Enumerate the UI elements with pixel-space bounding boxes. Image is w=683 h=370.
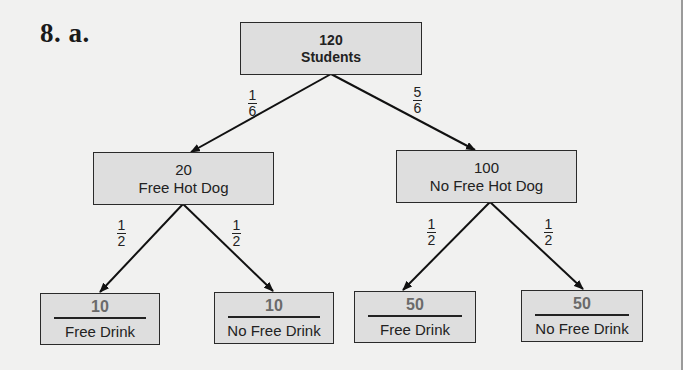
probability-nohotdog-no-free-drink: 1 2 [544, 218, 553, 247]
leaf-nohotdog-free-drink: 50 Free Drink [354, 291, 476, 343]
root-count: 120 [319, 32, 342, 49]
root-node: 120 Students [240, 22, 422, 75]
fraction-bar [368, 315, 462, 317]
fraction-bar [54, 317, 146, 319]
probability-hotdog-free-drink: 1 2 [117, 219, 126, 248]
node-no-free-hot-dog: 100 No Free Hot Dog [396, 150, 577, 203]
leaf-nohotdog-no-free-drink: 50 No Free Drink [521, 290, 643, 342]
fraction-bar [535, 314, 629, 316]
root-label: Students [301, 49, 361, 66]
probability-no-free-hot-dog: 5 6 [413, 86, 422, 115]
arrow-hotdog-to-free-drink [100, 204, 183, 292]
arrow-nohotdog-to-free-drink [403, 202, 490, 290]
arrow-nohotdog-to-no-free-drink [490, 202, 583, 289]
leaf-hotdog-no-free-drink: 10 No Free Drink [214, 292, 334, 344]
probability-nohotdog-free-drink: 1 2 [427, 218, 436, 247]
leaf-hotdog-free-drink: 10 Free Drink [40, 293, 160, 345]
probability-free-hot-dog: 1 6 [248, 89, 257, 118]
probability-hotdog-no-free-drink: 1 2 [232, 219, 241, 248]
arrow-root-to-free-hot-dog [191, 74, 331, 152]
arrow-root-to-no-free-hot-dog [331, 74, 475, 150]
fraction-bar [228, 316, 320, 318]
node-free-hot-dog: 20 Free Hot Dog [93, 152, 274, 205]
arrow-hotdog-to-no-free-drink [183, 204, 273, 291]
